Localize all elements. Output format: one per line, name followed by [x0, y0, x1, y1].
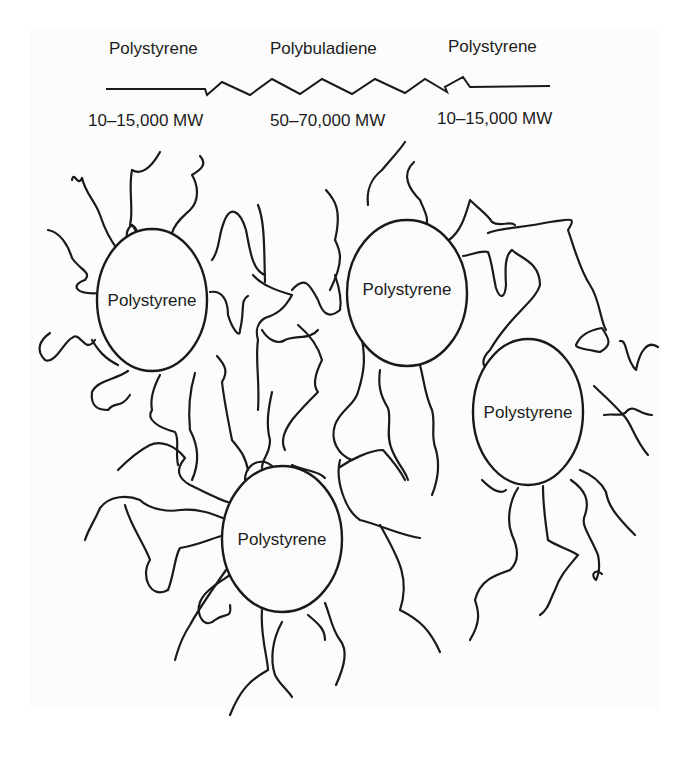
domain-label-top-left: Polystyrene	[108, 292, 197, 309]
domain-label-right: Polystyrene	[484, 404, 573, 421]
domain-label-bottom: Polystyrene	[238, 531, 327, 548]
block-copolymer-schematic	[106, 77, 550, 95]
diagram-canvas: Polystyrene Polybuladiene Polystyrene 10…	[0, 0, 689, 762]
domain-label-top-center: Polystyrene	[363, 281, 452, 298]
diagram-graphics	[0, 0, 689, 762]
